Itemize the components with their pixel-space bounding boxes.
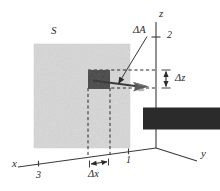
z-tick-label-2: 2 <box>167 30 172 40</box>
surface-label-S: S <box>51 25 57 36</box>
delta-x-measure <box>90 159 109 168</box>
z-axis-label: z <box>159 8 163 19</box>
x-axis-label: x <box>12 158 17 169</box>
physics-vector-diagram: S ΔA 2 z y x 3 1 Δz Δx <box>0 0 220 191</box>
x-tick-label-3: 3 <box>36 170 41 180</box>
area-vector-symbol-wrap: A <box>139 25 145 36</box>
area-patch <box>88 70 110 89</box>
x-tick-label-1: 1 <box>126 155 131 165</box>
y-axis-label: y <box>201 148 206 159</box>
vector-arrow-icon <box>143 23 151 27</box>
area-vector-label: ΔA <box>133 25 146 36</box>
delta-z-label: Δz <box>175 73 185 84</box>
delta-x-label: Δx <box>88 169 99 180</box>
surface-S <box>34 44 130 148</box>
